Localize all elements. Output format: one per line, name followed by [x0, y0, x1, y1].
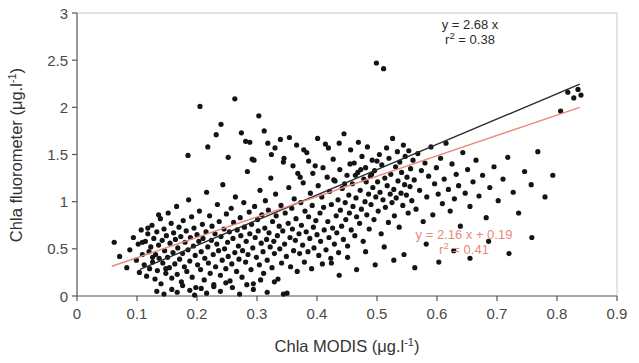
data-point: [359, 207, 364, 212]
trendline-r2-label: r2 = 0.41: [439, 240, 489, 258]
data-point: [244, 239, 249, 244]
data-point: [278, 203, 283, 208]
y-axis-tick-label: 0.5: [47, 240, 68, 257]
data-point: [198, 267, 203, 272]
data-point: [367, 226, 372, 231]
data-point: [279, 260, 284, 265]
data-point: [167, 241, 172, 246]
data-point: [152, 276, 157, 281]
data-point: [311, 225, 316, 230]
data-point: [218, 273, 223, 278]
data-point: [487, 185, 492, 190]
data-point: [173, 237, 178, 242]
data-point: [338, 208, 343, 213]
data-point: [467, 204, 472, 209]
data-point: [291, 248, 296, 253]
data-point: [187, 259, 192, 264]
data-point: [169, 221, 174, 226]
data-point: [465, 167, 470, 172]
data-point: [218, 122, 223, 127]
figure-container: 00.511.522.5300.10.20.30.40.50.60.70.80.…: [0, 0, 639, 363]
data-point: [353, 173, 358, 178]
data-point: [262, 225, 267, 230]
data-point: [386, 220, 391, 225]
data-point: [313, 163, 318, 168]
data-point: [256, 228, 261, 233]
data-point: [442, 176, 447, 181]
data-point: [384, 145, 389, 150]
data-point: [382, 244, 387, 249]
data-point: [366, 192, 371, 197]
data-point: [349, 227, 354, 232]
data-point: [362, 199, 367, 204]
data-point: [399, 170, 404, 175]
data-point: [278, 137, 283, 142]
data-point: [229, 261, 234, 266]
x-axis-tick-label: 0.2: [187, 305, 208, 322]
data-point: [223, 266, 228, 271]
data-point: [290, 226, 295, 231]
data-point: [272, 251, 277, 256]
data-point: [374, 159, 379, 164]
x-axis-tick-label: 0.3: [247, 305, 268, 322]
data-point: [326, 235, 331, 240]
data-point: [332, 242, 337, 247]
data-point: [391, 258, 396, 263]
data-point: [404, 175, 409, 180]
data-point: [337, 141, 342, 146]
data-point: [226, 155, 231, 160]
data-point: [211, 252, 216, 257]
data-point: [449, 161, 454, 166]
data-point: [370, 158, 375, 163]
data-point: [263, 198, 268, 203]
y-axis-tick-label: 1.5: [47, 146, 68, 163]
data-point: [241, 200, 246, 205]
data-point: [140, 240, 145, 245]
data-point: [197, 209, 202, 214]
data-point: [117, 254, 122, 259]
data-point: [407, 184, 412, 189]
data-point: [358, 188, 363, 193]
data-point: [347, 210, 352, 215]
data-point: [282, 242, 287, 247]
data-point: [391, 187, 396, 192]
data-point: [150, 255, 155, 260]
y-axis-tick-label: 1: [60, 193, 68, 210]
data-point: [382, 175, 387, 180]
data-point: [269, 152, 274, 157]
data-point: [232, 250, 237, 255]
data-point: [248, 267, 253, 272]
data-point: [174, 204, 179, 209]
data-point: [137, 270, 142, 275]
data-point: [195, 262, 200, 267]
data-point: [368, 202, 373, 207]
data-point: [185, 153, 190, 158]
data-point: [463, 191, 468, 196]
data-point: [176, 225, 181, 230]
data-point: [381, 66, 386, 71]
data-point: [308, 191, 313, 196]
x-axis-tick-label: 0.1: [127, 305, 148, 322]
data-point: [346, 192, 351, 197]
data-point: [373, 262, 378, 267]
data-point: [325, 219, 330, 224]
data-point: [365, 144, 370, 149]
data-point: [323, 247, 328, 252]
data-point: [434, 165, 439, 170]
data-point: [239, 130, 244, 135]
data-point: [204, 190, 209, 195]
data-point: [290, 163, 295, 168]
data-point: [343, 200, 348, 205]
data-point: [350, 204, 355, 209]
data-point: [208, 271, 213, 276]
data-point: [214, 242, 219, 247]
data-point: [171, 230, 176, 235]
data-point: [166, 210, 171, 215]
data-point: [395, 178, 400, 183]
data-point: [271, 239, 276, 244]
data-point: [224, 211, 229, 216]
data-point: [339, 224, 344, 229]
data-point: [293, 238, 298, 243]
data-point: [341, 237, 346, 242]
data-point: [243, 259, 248, 264]
